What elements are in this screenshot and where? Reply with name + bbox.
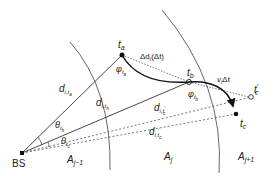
theta-tc-label: θtc (61, 136, 71, 149)
line-bs-tb (22, 82, 189, 153)
tc-prime-node (249, 95, 254, 100)
d-ta-label: di,ta (59, 83, 72, 97)
bs-label: BS (12, 158, 26, 169)
theta-tc-arc (48, 142, 49, 147)
delta-d-label: Δdi(Δt) (140, 52, 164, 62)
region-a-j-minus-1: Aj−1 (66, 154, 83, 167)
tc-prime-label: t′c (254, 83, 259, 96)
bs-node (20, 151, 24, 155)
line-bs-ta (22, 55, 122, 153)
ta-node (120, 53, 125, 58)
region-a-j: Aj (163, 151, 173, 164)
tc-label: tc (240, 118, 247, 130)
theta-tb-label: θtb (55, 120, 65, 133)
tc-node (234, 112, 239, 117)
line-tb-tc-prime-dotted (189, 82, 249, 97)
region-a-j-plus-1: Aj+1 (237, 151, 254, 164)
tb-label: tb (187, 67, 194, 79)
d-tc-prime-label: di,t′c (154, 102, 166, 116)
d-tb-label: di,tb (96, 97, 109, 111)
phi-tb-label: φtb (188, 89, 199, 102)
ta-label: ta (118, 39, 125, 51)
phi-ta-label: φta (116, 64, 127, 77)
mobility-diagram: BS ta tb tc t′c Δdi(Δt) viΔt φta φtb θtb… (0, 0, 276, 176)
velocity-label: viΔt (217, 75, 231, 85)
theta-tb-arc (38, 137, 42, 145)
